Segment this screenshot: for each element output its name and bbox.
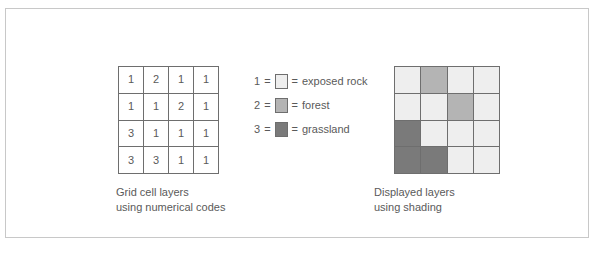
legend-swatch <box>275 74 288 89</box>
figure-frame: 1211112131113311 Grid cell layers using … <box>5 8 589 238</box>
legend-code: 1 <box>254 76 260 87</box>
numeric-cell: 3 <box>119 147 144 174</box>
shaded-cell <box>395 67 421 94</box>
legend-equals-right: = <box>292 124 298 135</box>
shaded-cell <box>395 121 421 148</box>
shaded-cell <box>421 147 447 174</box>
numeric-grid-caption-line2: using numerical codes <box>116 200 225 215</box>
shaded-cell <box>421 121 447 148</box>
numeric-grid-caption-line1: Grid cell layers <box>116 185 225 200</box>
shaded-cell <box>421 94 447 121</box>
numeric-cell: 1 <box>194 94 219 121</box>
numeric-cell: 1 <box>194 67 219 94</box>
shaded-cell <box>474 94 500 121</box>
shaded-cell <box>448 147 474 174</box>
numeric-cell: 1 <box>194 147 219 174</box>
shaded-grid-caption-line2: using shading <box>374 200 455 215</box>
legend-code: 3 <box>254 124 260 135</box>
numeric-cell: 1 <box>144 94 169 121</box>
numeric-cell: 1 <box>169 121 194 148</box>
shaded-cell <box>474 67 500 94</box>
legend-equals-left: = <box>264 76 270 87</box>
legend-label: grassland <box>302 124 350 135</box>
numeric-cell: 3 <box>144 147 169 174</box>
shaded-cell <box>448 121 474 148</box>
numeric-cell: 2 <box>144 67 169 94</box>
shaded-cell <box>474 147 500 174</box>
numeric-cell: 1 <box>169 147 194 174</box>
legend-code: 2 <box>254 100 260 111</box>
legend-swatch <box>275 122 288 137</box>
legend-row: 3==grassland <box>254 117 367 141</box>
numeric-cell: 1 <box>119 67 144 94</box>
numeric-cell: 1 <box>144 121 169 148</box>
numeric-grid-caption: Grid cell layers using numerical codes <box>116 185 225 215</box>
legend-equals-right: = <box>292 76 298 87</box>
legend-label: forest <box>302 100 330 111</box>
shaded-layer-grid <box>394 66 500 174</box>
legend-equals-right: = <box>292 100 298 111</box>
legend-row: 1==exposed rock <box>254 69 367 93</box>
shaded-grid-caption-line1: Displayed layers <box>374 185 455 200</box>
numeric-cell: 1 <box>119 94 144 121</box>
legend-row: 2==forest <box>254 93 367 117</box>
numeric-code-grid: 1211112131113311 <box>118 66 219 174</box>
legend-label: exposed rock <box>302 76 367 87</box>
numeric-cell: 2 <box>169 94 194 121</box>
legend-equals-left: = <box>264 100 270 111</box>
shaded-cell <box>474 121 500 148</box>
legend-swatch <box>275 98 288 113</box>
numeric-cell: 1 <box>194 121 219 148</box>
shaded-cell <box>395 147 421 174</box>
legend-equals-left: = <box>264 124 270 135</box>
shaded-cell <box>448 94 474 121</box>
numeric-cell: 1 <box>169 67 194 94</box>
shaded-cell <box>395 94 421 121</box>
legend: 1==exposed rock2==forest3==grassland <box>254 69 367 141</box>
shaded-grid-caption: Displayed layers using shading <box>374 185 455 215</box>
numeric-cell: 3 <box>119 121 144 148</box>
shaded-cell <box>448 67 474 94</box>
shaded-cell <box>421 67 447 94</box>
